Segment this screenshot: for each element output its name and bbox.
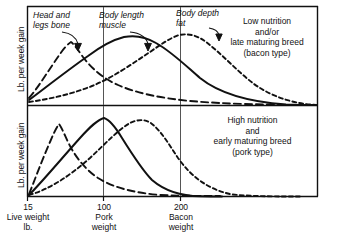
x-tick-label-15: 15 Live weight lb. — [0, 202, 59, 232]
x-tick-caption-bacon: Bacon — [151, 212, 211, 222]
x-tick-label-200: 200 Bacon weight — [151, 202, 211, 232]
top-panel-note: Low nutrition and/or late maturing breed… — [217, 16, 317, 58]
bottom-panel-note-line3: early maturing breed — [190, 136, 315, 147]
y-axis-title-top-panel: Lb. per week gain — [16, 27, 26, 92]
x-tick-value-200: 200 — [151, 202, 211, 212]
x-tick-caption-bacon-weight: weight — [151, 222, 211, 232]
callout-head-and-legs-bone-line1: Head and — [33, 10, 70, 20]
callout-body-length-muscle-line1: Body length — [99, 10, 144, 20]
top-panel-note-line3: late maturing breed — [217, 37, 317, 48]
callout-head-and-legs-bone-line2: legs bone — [33, 20, 70, 30]
leader-arrowhead-muscle — [145, 43, 152, 51]
bottom-panel-note-line1: High nutrition — [190, 115, 315, 126]
callout-head-and-legs-bone: Head and legs bone — [33, 10, 70, 30]
callout-body-depth-fat-line1: Body depth — [176, 8, 219, 18]
callout-body-length-muscle: Body length muscle — [99, 10, 144, 30]
x-tick-value-15: 15 — [0, 202, 59, 212]
top-panel-note-line4: (bacon type) — [217, 48, 317, 59]
callout-leaders — [62, 28, 222, 51]
bottom-panel-note: High nutrition and early maturing breed … — [190, 115, 315, 157]
x-tick-label-100: 100 Pork weight — [74, 202, 134, 232]
callout-body-depth-fat-line2: fat — [176, 18, 219, 28]
x-tick-caption-pork: Pork — [74, 212, 134, 222]
leader-body-length-muscle — [130, 32, 148, 44]
chart-figure: Lb. per week gain Lb. per week gain 15 L… — [0, 0, 339, 234]
x-tick-caption-lb: lb. — [0, 222, 59, 232]
x-tick-value-100: 100 — [74, 202, 134, 212]
y-axis-title-bottom-panel: Lb. per week gain — [16, 123, 26, 188]
callout-body-length-muscle-line2: muscle — [99, 20, 144, 30]
top-panel-note-line2: and/or — [217, 27, 317, 38]
x-tick-caption-live-weight: Live weight — [0, 212, 59, 222]
bottom-panel-note-line2: and — [190, 126, 315, 137]
x-tick-caption-pork-weight: weight — [74, 222, 134, 232]
callout-body-depth-fat: Body depth fat — [176, 8, 219, 28]
top-panel-note-line1: Low nutrition — [217, 16, 317, 27]
bottom-panel-note-line4: (pork type) — [190, 147, 315, 158]
